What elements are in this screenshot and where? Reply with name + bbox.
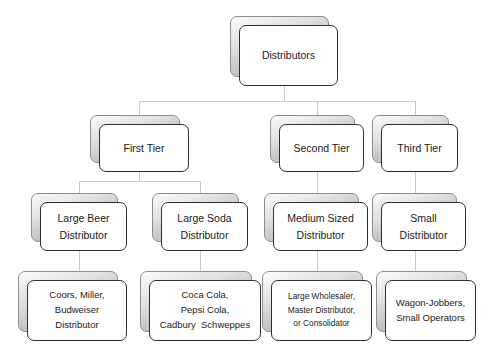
connector-small-to-jobbers bbox=[415, 251, 416, 271]
node-large-soda-distributor[interactable]: Large Soda Distributor bbox=[152, 193, 248, 251]
node-distributors[interactable]: Distributors bbox=[230, 16, 338, 86]
connector-medium-to-wholesalers bbox=[317, 251, 318, 271]
node-label-line: Cadbury Schweppes bbox=[154, 318, 256, 333]
card-face: Large Soda Distributor bbox=[161, 202, 248, 251]
connector-first-tier-bus bbox=[79, 181, 200, 182]
node-label-line: Master Distributor, bbox=[276, 304, 367, 317]
node-beer-brands[interactable]: Coors, Miller, Budweiser Distributor bbox=[18, 271, 127, 341]
connector-root-stem bbox=[284, 86, 285, 101]
card-face: Second Tier bbox=[279, 124, 364, 172]
node-large-beer-distributor[interactable]: Large Beer Distributor bbox=[31, 193, 127, 251]
connector-third-tier-to-small bbox=[415, 172, 416, 193]
connector-drop-large-soda bbox=[200, 181, 201, 193]
node-label-line: Distributor bbox=[32, 318, 122, 333]
connector-large-soda-to-brands bbox=[200, 251, 201, 271]
connector-large-beer-to-brands bbox=[79, 251, 80, 271]
card-face: Wagon-Jobbers, Small Operators bbox=[385, 280, 476, 341]
node-medium-sized-distributor[interactable]: Medium Sized Distributor bbox=[264, 193, 368, 251]
node-label-line: Distributor bbox=[386, 227, 461, 243]
node-second-tier[interactable]: Second Tier bbox=[270, 115, 364, 172]
connector-drop-third-tier bbox=[415, 101, 416, 115]
node-soda-brands[interactable]: Coca Cola, Pepsi Cola, Cadbury Schweppes bbox=[140, 271, 261, 341]
card-face: Coors, Miller, Budweiser Distributor bbox=[27, 280, 127, 341]
card-face: Medium Sized Distributor bbox=[273, 202, 368, 251]
node-label-line: Large Beer bbox=[45, 210, 122, 226]
card-face: First Tier bbox=[99, 124, 189, 172]
node-third-tier[interactable]: Third Tier bbox=[372, 115, 458, 172]
node-label-line: Distributors bbox=[244, 47, 333, 63]
node-label-line: Distributor bbox=[166, 227, 243, 243]
node-label-line: Large Soda bbox=[166, 210, 243, 226]
connector-drop-first-tier bbox=[139, 101, 140, 115]
node-label-line: Coca Cola, bbox=[154, 288, 256, 303]
connector-drop-large-beer bbox=[79, 181, 80, 193]
card-face: Small Distributor bbox=[381, 202, 466, 251]
node-label-line: Distributor bbox=[278, 227, 363, 243]
node-small-distributor[interactable]: Small Distributor bbox=[372, 193, 466, 251]
node-label-line: First Tier bbox=[104, 140, 184, 156]
connector-level1-bus bbox=[139, 101, 415, 102]
node-jobbers[interactable]: Wagon-Jobbers, Small Operators bbox=[376, 271, 476, 341]
card-face: Large Wholesaler, Master Distributor, or… bbox=[271, 280, 372, 341]
node-wholesalers[interactable]: Large Wholesaler, Master Distributor, or… bbox=[262, 271, 372, 341]
node-label-line: or Consolidator bbox=[276, 317, 367, 330]
card-face: Third Tier bbox=[381, 124, 458, 172]
card-face: Large Beer Distributor bbox=[40, 202, 127, 251]
node-label-line: Second Tier bbox=[284, 140, 359, 156]
connector-first-tier-stem bbox=[139, 172, 140, 181]
node-label-line: Small Operators bbox=[390, 311, 471, 326]
card-face: Coca Cola, Pepsi Cola, Cadbury Schweppes bbox=[149, 280, 261, 341]
node-label-line: Pepsi Cola, bbox=[154, 303, 256, 318]
connector-second-tier-to-medium bbox=[317, 172, 318, 193]
node-label-line: Budweiser bbox=[32, 303, 122, 318]
node-label-line: Coors, Miller, bbox=[32, 288, 122, 303]
node-label-line: Large Wholesaler, bbox=[276, 290, 367, 303]
node-label-line: Distributor bbox=[45, 227, 122, 243]
node-label-line: Wagon-Jobbers, bbox=[390, 296, 471, 311]
node-label-line: Third Tier bbox=[386, 140, 453, 156]
node-label-line: Small bbox=[386, 210, 461, 226]
card-face: Distributors bbox=[239, 25, 338, 86]
node-first-tier[interactable]: First Tier bbox=[90, 115, 189, 172]
connector-drop-second-tier bbox=[317, 101, 318, 115]
node-label-line: Medium Sized bbox=[278, 210, 363, 226]
org-chart-diagram: Distributors First Tier Second Tier Thir… bbox=[0, 0, 491, 358]
